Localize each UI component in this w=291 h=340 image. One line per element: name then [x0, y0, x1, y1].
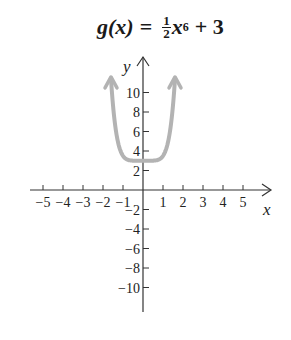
- y-tick-label: −10: [118, 281, 140, 296]
- x-axis-label: x: [262, 200, 271, 219]
- x-tick-label: 1: [160, 195, 167, 210]
- y-tick-label: −6: [125, 242, 140, 257]
- y-tick-label: 10: [126, 86, 140, 101]
- y-tick-label: 4: [133, 144, 140, 159]
- y-tick-label: 8: [133, 105, 140, 120]
- x-tick-label: −5: [36, 195, 51, 210]
- axes: [30, 57, 271, 312]
- x-tick-label: 4: [220, 195, 227, 210]
- y-tick-label: −4: [125, 222, 140, 237]
- x-tick-label: −4: [56, 195, 71, 210]
- x-tick-label: 5: [240, 195, 247, 210]
- x-tick-label: 2: [180, 195, 187, 210]
- x-tick-label: 3: [200, 195, 207, 210]
- y-axis-label: y: [121, 57, 131, 76]
- x-tick-label: −3: [76, 195, 91, 210]
- y-tick-label: 2: [133, 164, 140, 179]
- y-tick-label: 6: [133, 125, 140, 140]
- graph: −5−4−3−2−112345−10−8−6−4−2246810 x y: [0, 0, 291, 340]
- y-tick-label: −8: [125, 261, 140, 276]
- y-tick-label: −2: [125, 203, 140, 218]
- x-tick-label: −2: [96, 195, 111, 210]
